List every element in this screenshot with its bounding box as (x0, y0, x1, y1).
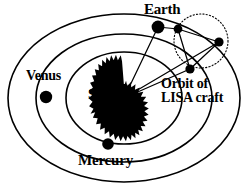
label-lisa-line2: LISA craft (161, 91, 223, 105)
label-earth: Earth (144, 2, 181, 17)
planet-dot-icon-mercury (102, 138, 114, 150)
label-mercury: Mercury (78, 153, 133, 168)
label-lisa-orbit: Orbit of LISA craft (161, 77, 223, 106)
label-venus: Venus (26, 69, 61, 83)
label-sun: Sun (88, 88, 111, 102)
planet-dot-icon-venus (40, 91, 52, 103)
label-lisa-line1: Orbit of (161, 76, 208, 91)
triangle-edge-1-2 (178, 29, 219, 42)
spacecraft-dot-icon-1 (174, 25, 183, 34)
lisa-orbit-diagram: Earth Venus Sun Mercury Orbit of LISA cr… (0, 0, 246, 195)
spacecraft-dot-icon-2 (214, 37, 223, 46)
spacecraft-dot-icon-3 (185, 64, 194, 73)
triangle-edge-2-3 (190, 42, 219, 69)
planet-dot-icon-earth (152, 21, 165, 34)
